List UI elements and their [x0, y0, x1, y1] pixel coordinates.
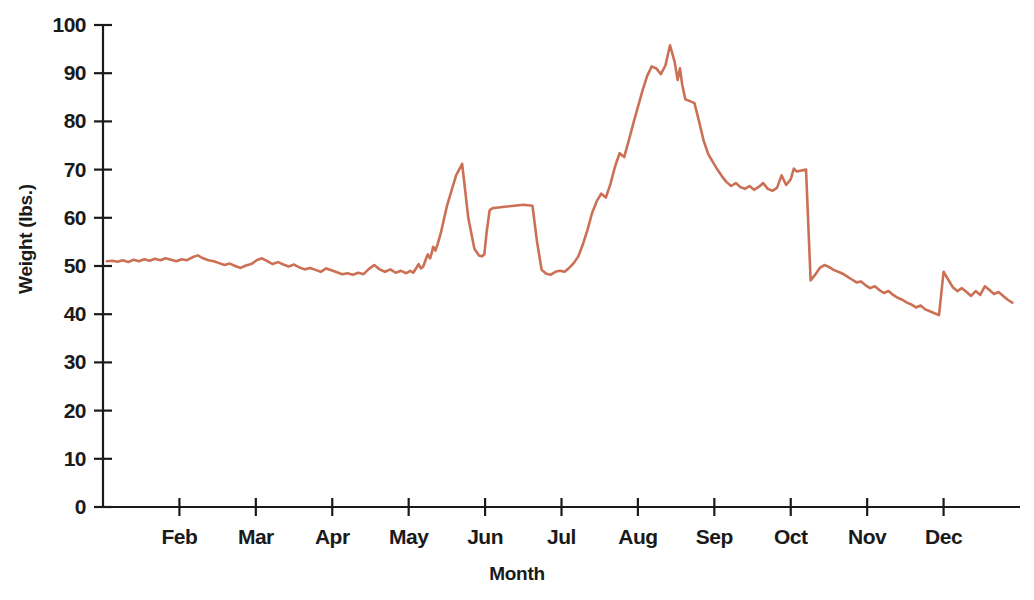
x-tick-label: Dec: [899, 526, 989, 547]
y-tick-label: 40: [16, 303, 86, 324]
y-tick-label: 10: [16, 448, 86, 469]
y-tick-label: 90: [16, 62, 86, 83]
y-tick-label: 80: [16, 110, 86, 131]
y-tick-label: 100: [16, 14, 86, 35]
x-axis-title: Month: [0, 563, 1034, 585]
y-tick-label: 70: [16, 159, 86, 180]
axes: [103, 24, 1020, 507]
weight-line-chart: Weight (lbs.) Month 01020304050607080901…: [0, 0, 1034, 600]
y-tick-label: 30: [16, 351, 86, 372]
y-tick-label: 50: [16, 255, 86, 276]
plot-area: [0, 0, 1034, 600]
y-tick-label: 60: [16, 207, 86, 228]
y-axis-title: Weight (lbs.): [15, 169, 37, 309]
y-tick-label: 20: [16, 400, 86, 421]
weight-series-line: [107, 45, 1013, 315]
y-tick-label: 0: [16, 496, 86, 517]
tick-marks: [94, 25, 944, 516]
